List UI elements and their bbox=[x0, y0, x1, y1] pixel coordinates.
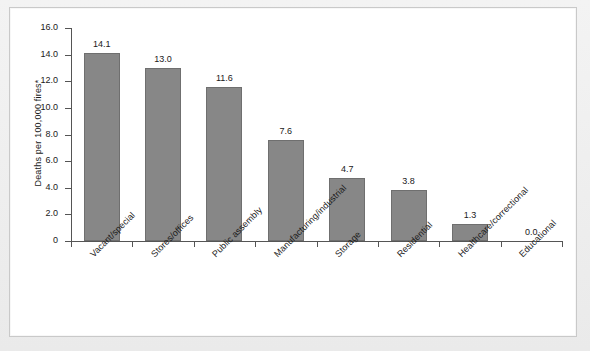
y-tick-label: 14.0 bbox=[24, 50, 58, 59]
x-axis-label: Healthcare/correctional bbox=[456, 185, 530, 259]
y-tick-mark bbox=[65, 81, 71, 82]
bar bbox=[206, 87, 242, 241]
x-axis-label: Educational bbox=[517, 218, 558, 259]
y-axis-line bbox=[71, 28, 72, 242]
x-tick-mark bbox=[501, 241, 502, 247]
y-tick-label: 0 bbox=[24, 236, 58, 245]
y-tick-mark bbox=[65, 55, 71, 56]
bar-value-label: 14.1 bbox=[78, 40, 126, 49]
y-tick-label: 8.0 bbox=[24, 130, 58, 139]
x-tick-mark bbox=[562, 241, 563, 247]
y-tick-mark bbox=[65, 214, 71, 215]
bar-value-label: 3.8 bbox=[385, 177, 433, 186]
x-tick-mark bbox=[255, 241, 256, 247]
y-tick-label: 2.0 bbox=[24, 209, 58, 218]
y-tick-mark bbox=[65, 135, 71, 136]
bar-value-label: 1.3 bbox=[446, 211, 494, 220]
plot-area: Deaths per 100,000 fires* 16.014.012.010… bbox=[10, 8, 576, 336]
chart-page: Deaths per 100,000 fires* 16.014.012.010… bbox=[0, 0, 590, 351]
y-tick-mark bbox=[65, 28, 71, 29]
y-tick-mark bbox=[65, 161, 71, 162]
x-tick-mark bbox=[439, 241, 440, 247]
y-tick-label: 4.0 bbox=[24, 183, 58, 192]
bar-value-label: 13.0 bbox=[139, 55, 187, 64]
bar-value-label: 4.7 bbox=[323, 165, 371, 174]
y-tick-label: 10.0 bbox=[24, 103, 58, 112]
bar-value-label: 11.6 bbox=[200, 74, 248, 83]
y-tick-label: 12.0 bbox=[24, 76, 58, 85]
bar bbox=[84, 53, 120, 241]
y-tick-label: 6.0 bbox=[24, 156, 58, 165]
x-tick-mark bbox=[132, 241, 133, 247]
x-tick-mark bbox=[378, 241, 379, 247]
bar-value-label: 7.6 bbox=[262, 127, 310, 136]
chart-paper: Deaths per 100,000 fires* 16.014.012.010… bbox=[9, 7, 577, 337]
x-tick-mark bbox=[71, 241, 72, 247]
y-tick-mark bbox=[65, 108, 71, 109]
x-tick-mark bbox=[194, 241, 195, 247]
bar bbox=[145, 68, 181, 241]
y-tick-label: 16.0 bbox=[24, 23, 58, 32]
y-tick-mark bbox=[65, 188, 71, 189]
x-tick-mark bbox=[317, 241, 318, 247]
